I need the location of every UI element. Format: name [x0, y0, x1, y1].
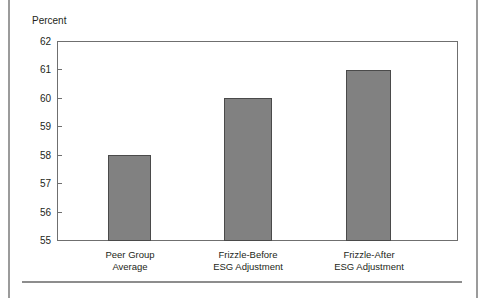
x-axis-category-label-2: Frizzle-After ESG Adjustment: [317, 249, 421, 272]
x-axis-category-label-0: Peer Group Average: [79, 249, 181, 272]
category-label-line: ESG Adjustment: [317, 261, 421, 273]
bar-frizzle-before-esg-adjustment: [224, 98, 272, 241]
category-label-line: Average: [79, 261, 181, 273]
category-label-line: Frizzle-Before: [196, 249, 300, 261]
bar-frizzle-after-esg-adjustment: [346, 70, 391, 241]
category-label-line: Peer Group: [79, 249, 181, 261]
bar-chart-figure: Percent 62 61 60 59 58 57 56 55 Peer Gro…: [0, 0, 486, 298]
x-axis-category-label-1: Frizzle-Before ESG Adjustment: [196, 249, 300, 272]
category-label-line: Frizzle-After: [317, 249, 421, 261]
category-label-line: ESG Adjustment: [196, 261, 300, 273]
bar-peer-group-average: [108, 155, 151, 241]
